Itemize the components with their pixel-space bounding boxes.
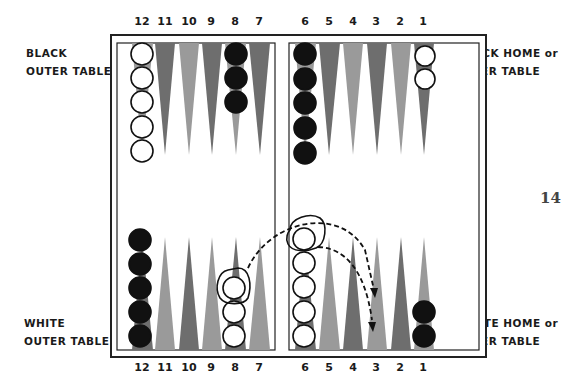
right-panel xyxy=(289,43,479,350)
backgammon-board xyxy=(0,0,582,392)
